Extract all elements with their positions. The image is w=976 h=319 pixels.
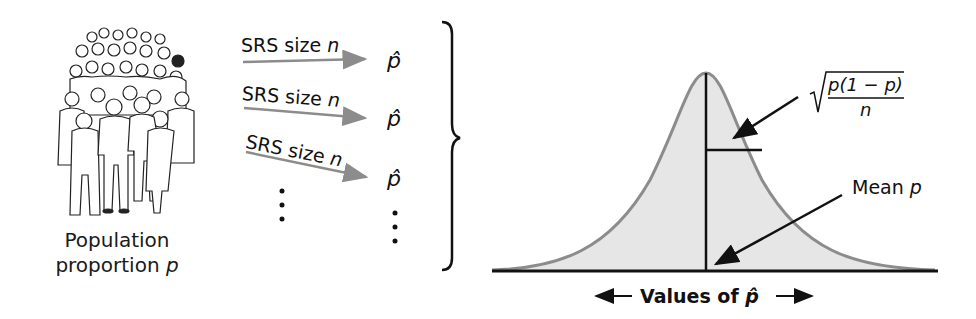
brace (442, 22, 460, 270)
sample-statistic-3: p̂ (387, 166, 401, 191)
formula-numerator: p(1 − p) (828, 74, 903, 95)
diagram-lines (0, 0, 976, 319)
sample-arrow-2 (244, 108, 365, 118)
axis-label: Values of p̂ (640, 285, 759, 307)
sample-label-1: SRS size n (241, 34, 339, 56)
sample-statistic-1: p̂ (387, 48, 401, 73)
std-dev-arrow (734, 97, 798, 138)
sample-statistic-2: p̂ (387, 106, 401, 131)
sample-arrow-1 (243, 59, 365, 62)
mean-label: Mean p (852, 176, 922, 198)
formula-denominator: n (860, 99, 871, 120)
